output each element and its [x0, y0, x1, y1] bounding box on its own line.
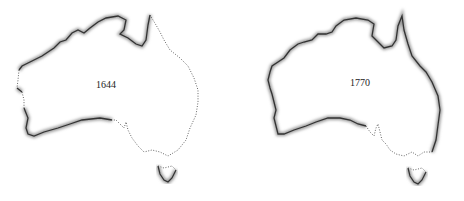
map-1644: 1644 — [0, 0, 232, 201]
year-label: 1644 — [96, 79, 116, 90]
year-label: 1770 — [350, 77, 370, 88]
australia-outline-1644 — [0, 0, 232, 201]
map-1770: 1770 — [232, 0, 464, 201]
australia-outline-1770 — [232, 0, 464, 201]
